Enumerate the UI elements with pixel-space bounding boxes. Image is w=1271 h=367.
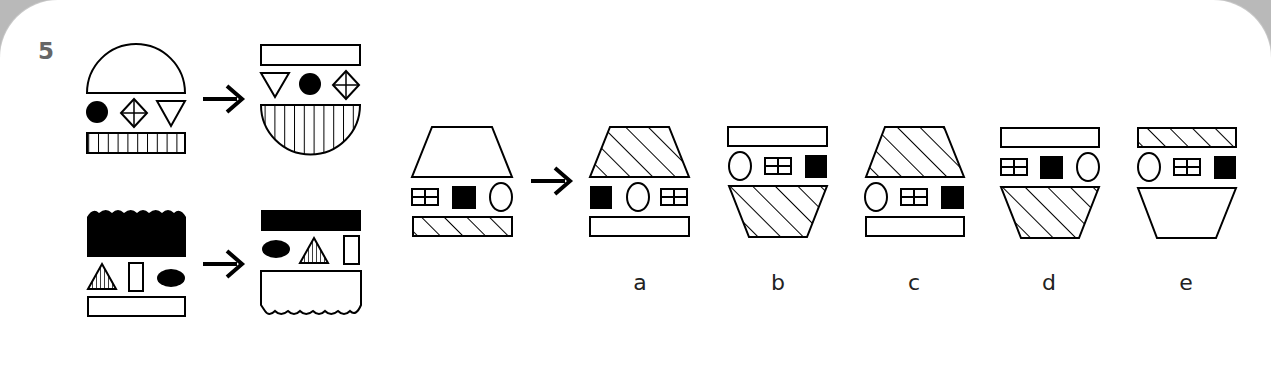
option-c-figure[interactable] (865, 127, 964, 236)
example-2-before (87, 210, 186, 316)
puzzle-page: 5 (0, 0, 1271, 367)
option-e-figure[interactable] (1138, 128, 1236, 238)
example-1-before (86, 44, 185, 153)
test-figure (412, 127, 512, 236)
option-b-figure[interactable] (728, 127, 827, 237)
arrow-icon (203, 86, 242, 112)
option-d-label[interactable]: d (1029, 270, 1069, 295)
option-c-label[interactable]: c (894, 270, 934, 295)
option-a-label[interactable]: a (620, 270, 660, 295)
puzzle-figures (0, 0, 1271, 367)
arrow-icon (203, 251, 242, 277)
arrow-icon (531, 168, 570, 194)
example-2-after (261, 210, 361, 314)
option-a-figure[interactable] (590, 127, 689, 236)
example-1-after (261, 45, 360, 155)
option-b-label[interactable]: b (758, 270, 798, 295)
option-e-label[interactable]: e (1166, 270, 1206, 295)
option-d-figure[interactable] (1001, 128, 1099, 238)
